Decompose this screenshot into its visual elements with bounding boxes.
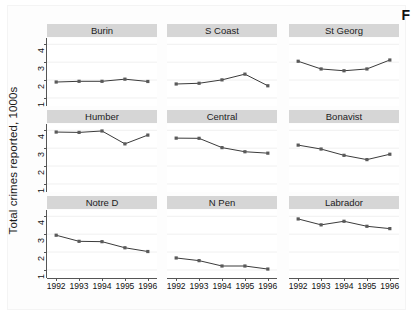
data-point-marker <box>77 80 80 83</box>
data-point-marker <box>243 264 246 267</box>
data-point-marker <box>266 84 269 87</box>
y-axis-tick-label: 1 <box>37 183 46 197</box>
series-line <box>176 138 268 153</box>
panel-burin: Burin <box>47 24 157 106</box>
panel-s-coast: S Coast <box>167 24 277 106</box>
panel-bonavist: Bonavist <box>289 110 399 192</box>
panel-humber: Humber <box>47 110 157 192</box>
panel-title: Central <box>207 112 238 122</box>
figure-small-multiples-chart: Total crimes reported, 1000s Burin1234S … <box>0 0 413 321</box>
panel-title: St Georg <box>325 26 363 36</box>
data-point-marker <box>220 146 223 149</box>
panel-strip: N Pen <box>167 196 277 209</box>
y-axis-tick-label: 2 <box>37 80 46 94</box>
x-axis-tick-label: 1996 <box>135 282 161 291</box>
data-point-marker <box>55 130 58 133</box>
data-point-marker <box>342 69 345 72</box>
data-point-marker <box>319 223 322 226</box>
series-line <box>298 145 390 159</box>
panel-strip: Notre D <box>47 196 157 209</box>
panel-strip: Central <box>167 110 277 123</box>
data-point-marker <box>123 78 126 81</box>
data-point-marker <box>388 227 391 230</box>
x-axis: 19921993199419951996 <box>167 278 277 294</box>
x-axis-tick-label: 1996 <box>255 282 281 291</box>
x-axis-tick-label: 1996 <box>377 282 403 291</box>
data-point-marker <box>197 82 200 85</box>
panel-title: S Coast <box>205 26 239 36</box>
data-point-marker <box>319 147 322 150</box>
data-point-marker <box>220 78 223 81</box>
y-axis-tick-label: 3 <box>37 148 46 162</box>
data-point-marker <box>319 67 322 70</box>
panel-title: Burin <box>91 26 113 36</box>
y-axis-tick-label: 3 <box>37 62 46 76</box>
panel-grid: Burin1234S CoastSt GeorgHumber1234Centra… <box>47 24 399 280</box>
data-point-marker <box>388 153 391 156</box>
data-point-marker <box>365 158 368 161</box>
panel-n-pen: N Pen <box>167 196 277 278</box>
plot-area <box>167 210 277 278</box>
panel-strip: St Georg <box>289 24 399 37</box>
panel-strip: Bonavist <box>289 110 399 123</box>
data-point-marker <box>123 142 126 145</box>
panel-notre-d: Notre D <box>47 196 157 278</box>
corner-figure-mark: F <box>401 8 410 22</box>
y-axis-tick-label: 2 <box>37 252 46 266</box>
y-axis-spine <box>46 210 47 278</box>
data-point-marker <box>197 259 200 262</box>
data-point-marker <box>146 133 149 136</box>
data-point-marker <box>266 152 269 155</box>
series-line <box>56 235 148 251</box>
x-axis: 19921993199419951996 <box>289 278 399 294</box>
panel-strip: Labrador <box>289 196 399 209</box>
series-line <box>298 60 390 71</box>
panel-central: Central <box>167 110 277 192</box>
panel-labrador: Labrador <box>289 196 399 278</box>
data-point-marker <box>297 144 300 147</box>
data-point-marker <box>146 250 149 253</box>
data-point-marker <box>123 246 126 249</box>
data-point-marker <box>297 60 300 63</box>
panel-st-georg: St Georg <box>289 24 399 106</box>
data-point-marker <box>266 267 269 270</box>
data-point-marker <box>365 67 368 70</box>
data-point-marker <box>175 137 178 140</box>
panel-title: N Pen <box>209 198 235 208</box>
y-axis: 1234 <box>33 210 47 278</box>
x-axis: 19921993199419951996 <box>47 278 157 294</box>
data-point-marker <box>100 129 103 132</box>
plot-area <box>289 124 399 192</box>
plot-area <box>47 210 157 278</box>
y-axis-tick-label: 4 <box>37 216 46 230</box>
data-point-marker <box>297 217 300 220</box>
data-point-marker <box>243 73 246 76</box>
data-point-marker <box>55 234 58 237</box>
panel-strip: Humber <box>47 110 157 123</box>
y-axis: 1234 <box>33 38 47 106</box>
plot-area <box>47 124 157 192</box>
plot-area <box>167 38 277 106</box>
plot-area <box>167 124 277 192</box>
y-axis-title: Total crimes reported, 1000s <box>0 0 26 321</box>
data-point-marker <box>220 264 223 267</box>
plot-area <box>289 210 399 278</box>
data-point-marker <box>342 154 345 157</box>
data-point-marker <box>100 240 103 243</box>
data-point-marker <box>55 80 58 83</box>
y-axis-tick-label: 1 <box>37 97 46 111</box>
y-axis: 1234 <box>33 124 47 192</box>
y-axis-spine <box>46 124 47 192</box>
panel-title: Notre D <box>86 198 119 208</box>
data-point-marker <box>365 225 368 228</box>
data-point-marker <box>100 80 103 83</box>
panel-strip: Burin <box>47 24 157 37</box>
data-point-marker <box>175 256 178 259</box>
data-point-marker <box>146 80 149 83</box>
y-axis-tick-label: 2 <box>37 166 46 180</box>
data-point-marker <box>388 58 391 61</box>
y-axis-tick-label: 3 <box>37 234 46 248</box>
panel-title: Humber <box>85 112 119 122</box>
y-axis-tick-label: 4 <box>37 130 46 144</box>
plot-area <box>289 38 399 106</box>
